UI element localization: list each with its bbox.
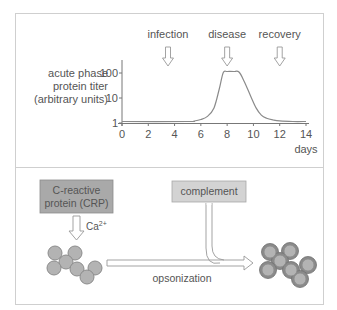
x-tick-label: 2 xyxy=(145,128,151,140)
titer-chart: acute phase protein titer (arbitrary uni… xyxy=(34,28,318,155)
x-tick-label: 4 xyxy=(172,128,178,140)
opsonized-bacterium xyxy=(262,264,274,276)
annotation-disease: disease xyxy=(208,28,246,40)
crp-label-line-2: protein (CRP) xyxy=(44,197,108,209)
opsonized-bacterium xyxy=(264,246,276,258)
titer-curve xyxy=(122,71,306,122)
x-tick-label: 0 xyxy=(119,128,125,140)
opsonization-label: opsonization xyxy=(153,272,212,284)
opsonization-diagram: C-reactive protein (CRP) complement Ca2+… xyxy=(40,180,317,288)
complement-arrow-icon xyxy=(206,203,224,263)
y-tick-label: 10 xyxy=(106,92,118,104)
complement-label: complement xyxy=(180,185,237,197)
x-tick-label: 10 xyxy=(247,128,259,140)
annotation-arrow-icon xyxy=(163,47,174,66)
annotation-infection: infection xyxy=(148,28,189,40)
annotation-arrow-icon xyxy=(274,47,285,66)
opsonization-arrow-icon xyxy=(107,256,253,270)
bacteria-cluster xyxy=(47,246,102,284)
x-tick-label: 12 xyxy=(274,128,286,140)
y-tick-label: 1 xyxy=(112,117,118,129)
figure: acute phase protein titer (arbitrary uni… xyxy=(0,0,337,310)
bacterium xyxy=(80,270,94,284)
complement-arrow-fill xyxy=(207,203,212,205)
x-tick-label: 14 xyxy=(300,128,312,140)
x-tick-label: 8 xyxy=(224,128,230,140)
opsonized-bacterium xyxy=(302,259,314,271)
annotation-recovery: recovery xyxy=(259,28,302,40)
opsonized-bacteria-cluster xyxy=(260,243,317,288)
opsonized-bacterium xyxy=(274,255,286,267)
y-tick-label: 100 xyxy=(100,67,118,79)
crp-binding-arrow-icon xyxy=(69,216,84,240)
annotation-arrow-icon xyxy=(222,47,233,66)
bacterium xyxy=(47,261,61,275)
calcium-label: Ca2+ xyxy=(86,220,107,232)
x-tick-label: 6 xyxy=(198,128,204,140)
x-axis-label: days xyxy=(294,143,318,155)
y-axis-label-line-3: (arbitrary units) xyxy=(34,93,108,105)
crp-label-line-1: C-reactive xyxy=(53,184,101,196)
opsonized-bacterium xyxy=(285,264,297,276)
opsonized-bacterium xyxy=(294,273,306,285)
y-axis-label-line-2: protein titer xyxy=(53,80,108,92)
opsonized-bacterium xyxy=(284,245,296,257)
